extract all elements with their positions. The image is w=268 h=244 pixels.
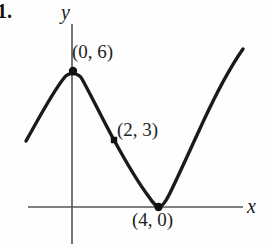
point-marker-0-6 bbox=[69, 67, 77, 75]
point-label-inflection: (2, 3) bbox=[117, 120, 158, 139]
graph-figure: 1. y x (0, 6) (2, 3) (4, 0) bbox=[0, 0, 268, 244]
point-label-local-max: (0, 6) bbox=[72, 42, 113, 61]
x-axis-label: x bbox=[247, 196, 256, 216]
problem-number: 1. bbox=[0, 1, 12, 21]
y-axis-label: y bbox=[61, 2, 70, 22]
point-label-root: (4, 0) bbox=[132, 210, 173, 229]
